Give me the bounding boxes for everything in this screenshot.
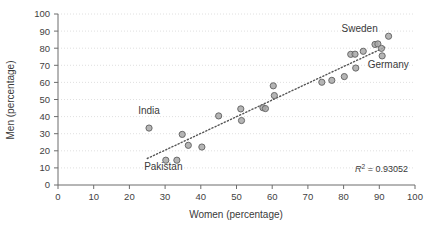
y-tick-label: 100 bbox=[34, 8, 50, 19]
y-tick-label: 50 bbox=[39, 94, 50, 105]
y-axis-title: Men (percentage) bbox=[5, 61, 16, 140]
y-tick-label: 40 bbox=[39, 111, 50, 122]
x-tick-label: 70 bbox=[303, 191, 314, 202]
x-tick-label: 30 bbox=[160, 191, 171, 202]
point-label-india: India bbox=[138, 105, 160, 116]
y-tick-label: 0 bbox=[45, 179, 50, 190]
y-tick-label: 60 bbox=[39, 77, 50, 88]
x-tick-label: 80 bbox=[338, 191, 349, 202]
trend-line bbox=[147, 47, 384, 158]
data-point bbox=[216, 113, 222, 119]
plot-area-svg: 0102030405060708090100 01020304050607080… bbox=[0, 0, 437, 230]
data-point bbox=[353, 65, 359, 71]
x-tick-label: 60 bbox=[267, 191, 278, 202]
data-point bbox=[185, 142, 191, 148]
data-point bbox=[271, 92, 277, 98]
data-point bbox=[179, 131, 185, 137]
data-point bbox=[262, 105, 268, 111]
y-tick-label: 10 bbox=[39, 162, 50, 173]
scatter-chart-figure: 0102030405060708090100 01020304050607080… bbox=[0, 0, 437, 230]
data-point bbox=[238, 106, 244, 112]
point-label-pakistan: Pakistan bbox=[144, 161, 182, 172]
data-point bbox=[146, 125, 152, 131]
y-tick-label: 70 bbox=[39, 60, 50, 71]
y-tick-label: 80 bbox=[39, 43, 50, 54]
r-squared-annotation: R2 = 0.93052 bbox=[355, 163, 408, 175]
x-tick-label: 10 bbox=[88, 191, 99, 202]
x-axis-tick-labels: 0102030405060708090100 bbox=[55, 191, 423, 202]
gridlines-group bbox=[58, 14, 415, 168]
data-point bbox=[238, 117, 244, 123]
data-point bbox=[378, 45, 384, 51]
y-tick-label: 20 bbox=[39, 145, 50, 156]
x-tick-label: 90 bbox=[374, 191, 385, 202]
data-point bbox=[329, 77, 335, 83]
x-tick-label: 100 bbox=[407, 191, 423, 202]
x-tick-label: 20 bbox=[124, 191, 135, 202]
data-point bbox=[341, 73, 347, 79]
x-axis-title: Women (percentage) bbox=[189, 209, 283, 220]
data-point bbox=[270, 83, 276, 89]
data-point bbox=[319, 79, 325, 85]
point-label-sweden: Sweden bbox=[342, 23, 378, 34]
data-point bbox=[360, 48, 366, 54]
data-point bbox=[199, 144, 205, 150]
y-axis-tick-labels: 0102030405060708090100 bbox=[34, 8, 50, 190]
data-point bbox=[385, 33, 391, 39]
y-tick-label: 30 bbox=[39, 128, 50, 139]
point-label-germany: Germany bbox=[368, 59, 409, 70]
data-point bbox=[352, 51, 358, 57]
x-tick-label: 50 bbox=[231, 191, 242, 202]
data-points-group bbox=[146, 33, 392, 163]
x-tick-label: 0 bbox=[55, 191, 60, 202]
y-tick-label: 90 bbox=[39, 26, 50, 37]
x-tick-label: 40 bbox=[196, 191, 207, 202]
